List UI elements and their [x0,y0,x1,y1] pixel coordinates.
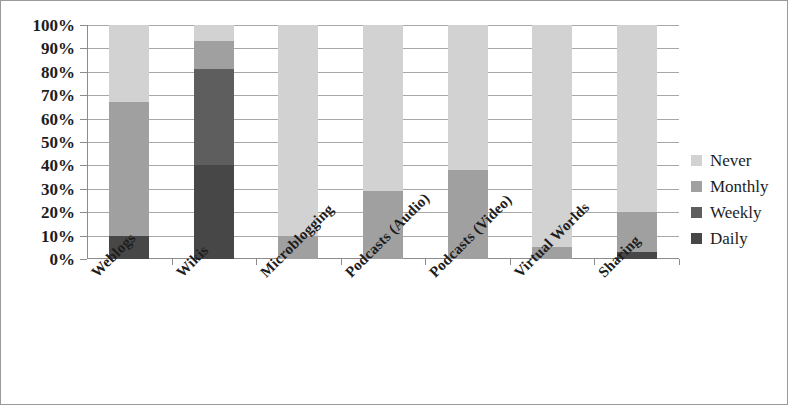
legend-label: Weekly [710,204,762,221]
y-axis-tick-mark [80,259,87,260]
x-axis-tick-mark [341,259,342,265]
bar-slot [425,25,510,259]
y-axis-tick-label: 70% [3,87,75,104]
chart-container: 0%10%20%30%40%50%60%70%80%90%100% Weblog… [0,0,788,405]
y-axis-tick-mark [80,212,87,213]
x-axis-tick-mark [256,259,257,265]
y-axis-tick-mark [80,48,87,49]
stacked-bar [194,25,234,259]
x-axis-tick-mark [594,259,595,265]
bar-slot [172,25,257,259]
bar-slot [594,25,679,259]
bar-segment-never [278,25,318,236]
y-axis-tick-mark [80,95,87,96]
y-axis-tick-mark [80,119,87,120]
bar-segment-never [363,25,403,191]
y-axis-tick-mark [80,72,87,73]
bar-segment-never [194,25,234,41]
y-axis-tick-mark [80,165,87,166]
y-axis-tick-label: 50% [3,134,75,151]
y-axis-tick-label: 0% [3,251,75,268]
bar-slot [341,25,426,259]
x-axis-tick-mark [679,259,680,265]
legend-item: Monthly [691,173,769,199]
legend-item: Daily [691,225,769,251]
legend-label: Daily [710,230,748,247]
bar-slot [87,25,172,259]
y-axis-tick-mark [80,189,87,190]
x-axis-tick-mark [425,259,426,265]
y-axis-tick-mark [80,236,87,237]
bar-segment-weekly [194,69,234,165]
y-axis-tick-label: 100% [3,17,75,34]
y-axis-tick-label: 10% [3,227,75,244]
bar-slot [256,25,341,259]
bar-slot [510,25,595,259]
legend-item: Weekly [691,199,769,225]
bar-segment-monthly [194,41,234,69]
y-axis-tick-mark [80,142,87,143]
stacked-bar [109,25,149,259]
legend-label: Never [710,152,752,169]
y-axis-tick-label: 60% [3,110,75,127]
bar-series-layer [87,25,679,259]
bar-segment-monthly [109,102,149,235]
bar-segment-never [448,25,488,170]
y-axis-tick-label: 40% [3,157,75,174]
y-axis-tick-label: 30% [3,180,75,197]
x-axis-tick-mark [510,259,511,265]
x-axis-tick-mark [172,259,173,265]
y-axis-tick-label: 20% [3,204,75,221]
bar-segment-never [617,25,657,212]
y-axis-tick-label: 80% [3,63,75,80]
legend-swatch-icon [691,207,702,218]
y-axis-tick-label: 90% [3,40,75,57]
legend: NeverMonthlyWeeklyDaily [691,147,769,251]
legend-label: Monthly [710,178,769,195]
legend-swatch-icon [691,155,702,166]
legend-swatch-icon [691,181,702,192]
bar-segment-never [109,25,149,102]
legend-item: Never [691,147,769,173]
stacked-bar [617,25,657,259]
legend-swatch-icon [691,233,702,244]
y-axis-tick-mark [80,25,87,26]
